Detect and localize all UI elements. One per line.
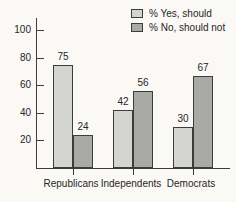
bar-democrats-yes (173, 127, 193, 168)
bar-democrats-no (193, 76, 213, 168)
bar-independents-no (133, 91, 153, 168)
value-label-independents-no: 56 (128, 77, 158, 89)
value-label-republicans-yes: 75 (48, 51, 78, 63)
value-label-democrats-no: 67 (188, 62, 218, 74)
x-tick-republicans (73, 169, 74, 175)
y-tick-label-40: 40 (0, 107, 31, 119)
y-tick-60 (37, 85, 44, 86)
x-tick-democrats (193, 169, 194, 175)
bar-republicans-yes (53, 65, 73, 169)
legend-label-yes: % Yes, should (149, 8, 212, 19)
x-tick-independents (133, 169, 134, 175)
y-tick-label-100: 100 (0, 24, 31, 36)
legend-swatch-yes (131, 9, 143, 18)
y-tick-20 (37, 140, 44, 141)
legend-item-yes: % Yes, should (131, 8, 225, 19)
bar-independents-yes (113, 110, 133, 168)
value-label-republicans-no: 24 (68, 121, 98, 133)
y-tick-40 (37, 113, 44, 114)
category-label-democrats: Democrats (141, 177, 236, 190)
y-axis (36, 18, 37, 169)
y-tick-label-80: 80 (0, 52, 31, 64)
y-tick-label-60: 60 (0, 79, 31, 91)
y-tick-100 (37, 30, 44, 31)
legend-swatch-no (131, 23, 143, 32)
bar-chart-figure: 20406080100 754230245667 RepublicansInde… (0, 0, 236, 202)
bar-republicans-no (73, 135, 93, 168)
y-tick-80 (37, 58, 44, 59)
chart-legend: % Yes, should % No, should not (131, 8, 225, 33)
legend-label-no: % No, should not (149, 22, 225, 33)
y-tick-label-20: 20 (0, 134, 31, 146)
legend-item-no: % No, should not (131, 22, 225, 33)
